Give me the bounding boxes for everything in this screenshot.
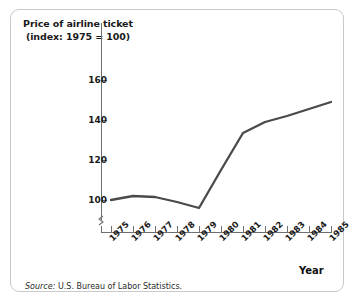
source-label: Source: [25,282,55,291]
source-text: U.S. Bureau of Labor Statistics. [55,282,182,291]
y-tick-label-group: 160 [63,75,107,85]
figure-panel: Price of airline ticket (index: 1975 = 1… [10,9,344,292]
y-tick-label-group: 140 [63,115,107,125]
y-tick-label: 140 [73,115,107,125]
y-tick-label: 120 [73,155,107,165]
source-note: Source: U.S. Bureau of Labor Statistics. [25,282,182,291]
y-tick-label-group: 100 [63,195,107,205]
axis-break-icon [97,213,109,227]
data-series-line [11,10,343,291]
y-axis-title: Price of airline ticket (index: 1975 = 1… [23,18,133,43]
plot-area: Price of airline ticket (index: 1975 = 1… [11,10,343,291]
y-tick-label-group: 120 [63,155,107,165]
x-tick-label: 1985 [327,219,351,243]
y-tick-label: 160 [73,75,107,85]
y-tick-label: 100 [73,195,107,205]
x-axis-title: Year [299,265,324,276]
